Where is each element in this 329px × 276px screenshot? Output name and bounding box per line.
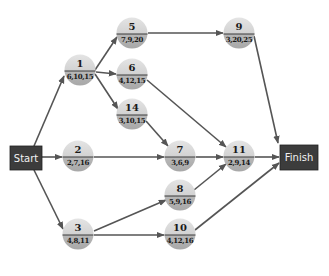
edge-6-11 — [147, 80, 226, 147]
edge-9-finish — [254, 36, 278, 143]
edge-10-finish — [195, 163, 279, 230]
edge-1-6 — [96, 72, 116, 74]
node-10-values: 4,12,16 — [167, 236, 194, 245]
node-3-values: 4,8,11 — [67, 236, 89, 245]
finish-box: Finish — [280, 145, 318, 170]
edge-8-11 — [194, 164, 226, 190]
node-3-id: 3 — [75, 222, 82, 233]
node-7-values: 3,6,9 — [171, 158, 189, 167]
node-5: 5 7,9,20 — [117, 18, 148, 49]
start-label: Start — [14, 153, 39, 164]
node-1-id: 1 — [77, 58, 84, 69]
node-8: 8 5,9,16 — [165, 180, 196, 211]
node-1: 1 6,10,15 — [65, 55, 96, 86]
edge-start-3 — [34, 170, 63, 229]
node-6: 6 4,12,15 — [117, 59, 148, 90]
node-8-id: 8 — [177, 183, 184, 194]
node-14-values: 3,10,15 — [119, 116, 146, 125]
node-7-id: 7 — [177, 144, 184, 155]
node-7: 7 3,6,9 — [165, 141, 196, 172]
node-9-id: 9 — [236, 21, 243, 32]
node-14-id: 14 — [125, 102, 139, 113]
node-14: 14 3,10,15 — [117, 99, 148, 130]
start-box: Start — [10, 146, 42, 170]
node-11-id: 11 — [232, 144, 246, 155]
edge-start-1 — [34, 76, 64, 146]
network-diagram: Start Finish 1 6,10,15 5 7,9,20 6 4,12,1… — [0, 0, 329, 276]
node-10-id: 10 — [173, 222, 187, 233]
node-5-id: 5 — [129, 21, 136, 32]
node-11-values: 2,9,14 — [228, 158, 250, 167]
node-1-values: 6,10,15 — [67, 72, 94, 81]
node-9: 9 3,20,25 — [224, 18, 255, 49]
node-11: 11 2,9,14 — [224, 141, 255, 172]
edge-1-14 — [95, 74, 118, 109]
node-6-id: 6 — [129, 62, 136, 73]
finish-label: Finish — [285, 152, 313, 163]
node-5-values: 7,9,20 — [121, 35, 143, 44]
node-2: 2 2,7,16 — [63, 141, 94, 172]
edge-1-5 — [95, 37, 117, 70]
edge-3-8 — [94, 200, 166, 231]
edge-14-7 — [146, 121, 168, 146]
node-6-values: 4,12,15 — [119, 76, 146, 85]
node-8-values: 5,9,16 — [169, 197, 191, 206]
node-3: 3 4,8,11 — [63, 219, 94, 250]
node-10: 10 4,12,16 — [165, 219, 196, 250]
node-9-values: 3,20,25 — [226, 35, 253, 44]
node-2-values: 2,7,16 — [67, 158, 89, 167]
node-2-id: 2 — [75, 144, 82, 155]
